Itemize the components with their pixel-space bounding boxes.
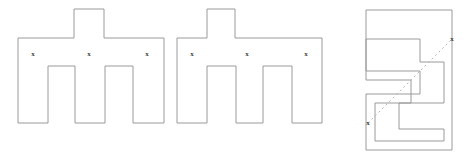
x-mark-icon: x [87, 50, 91, 58]
x-mark-icon: x [366, 119, 370, 127]
figure-canvas: xxxxxxxx [0, 0, 466, 158]
x-mark-icon: x [190, 50, 194, 58]
x-mark-icon: x [145, 50, 149, 58]
polygon-figure: xxxxxxxx [0, 0, 466, 158]
x-mark-icon: x [31, 50, 35, 58]
right-zigzag-polygon [366, 10, 452, 150]
middle-comb-polygon [177, 9, 322, 123]
x-mark-icon: x [304, 50, 308, 58]
left-comb-polygon [18, 9, 164, 123]
x-mark-icon: x [450, 35, 454, 43]
x-mark-icon: x [245, 50, 249, 58]
